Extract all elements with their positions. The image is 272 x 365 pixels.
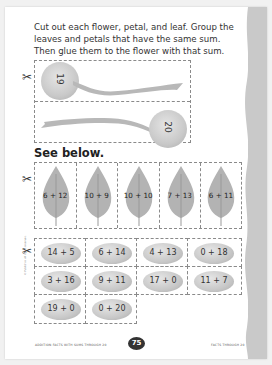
petal-cell: 6 + 14	[85, 238, 137, 267]
petal-equation: 0 + 20	[92, 304, 132, 313]
flower-number: 20	[163, 108, 173, 146]
petal-equation: 4 + 13	[143, 248, 183, 257]
petal-equation: 3 + 16	[41, 276, 81, 285]
leaf-cell: 10 + 10	[118, 163, 160, 228]
scissors-icon: ✂	[22, 172, 32, 186]
instructions-text: Cut out each flower, petal, and leaf. Gr…	[34, 21, 234, 57]
petal-cell: 19 + 0	[34, 294, 86, 324]
petal-image: 19 + 0	[41, 299, 81, 320]
flower-stem	[39, 110, 154, 136]
flower-number: 19	[55, 60, 65, 98]
scissors-icon: ✂	[22, 244, 32, 258]
petal-image: 14 + 5	[41, 243, 81, 264]
petals-cutout-box: 14 + 5 6 + 14 4 + 13 0 + 18 3 + 16 9 + 1…	[34, 238, 242, 328]
leaf-equation: 10 + 9	[77, 191, 118, 200]
flower-cell: 19	[35, 61, 190, 102]
petal-image: 11 + 7	[194, 271, 234, 292]
leaf-cell: 6 + 12	[35, 163, 77, 228]
petal-image: 9 + 11	[92, 271, 132, 292]
petal-image: 0 + 20	[92, 299, 132, 320]
torn-edge-decoration	[248, 7, 267, 359]
leaves-cutout-box: 6 + 12 10 + 9 10 + 10 7 + 13 6 + 11	[34, 162, 242, 229]
petal-image: 4 + 13	[143, 243, 183, 264]
flower-stem	[73, 73, 188, 99]
petal-image: 3 + 16	[41, 271, 81, 292]
flower-head: 20	[149, 110, 187, 148]
petal-image: 0 + 18	[194, 243, 234, 264]
scissors-icon: ✂	[22, 70, 32, 84]
flower-cutout-box: 19 20	[34, 60, 191, 143]
leaf-equation: 7 + 13	[160, 191, 201, 200]
section-heading: See below.	[34, 146, 104, 160]
page-number-badge: 75	[128, 337, 145, 350]
petal-cell: 17 + 0	[136, 266, 188, 295]
petal-cell: 4 + 13	[136, 238, 188, 267]
petal-equation: 11 + 7	[194, 276, 234, 285]
flower-cell: 20	[35, 102, 190, 142]
leaf-equation: 10 + 10	[118, 191, 159, 200]
petal-equation: 19 + 0	[41, 304, 81, 313]
footer-left-text: ADDITION FACTS WITH SUMS THROUGH 20	[35, 343, 107, 347]
petal-cell: 9 + 11	[85, 266, 137, 295]
leaf-equation: 6 + 11	[201, 191, 241, 200]
footer-right-text: FACTS THROUGH 20	[211, 343, 245, 347]
petal-equation: 6 + 14	[92, 248, 132, 257]
petal-cell: 11 + 7	[187, 266, 242, 295]
petal-image: 6 + 14	[92, 243, 132, 264]
petal-cell: 0 + 20	[85, 294, 137, 324]
petal-equation: 14 + 5	[41, 248, 81, 257]
petal-equation: 9 + 11	[92, 276, 132, 285]
petal-equation: 0 + 18	[194, 248, 234, 257]
petal-equation: 17 + 0	[143, 276, 183, 285]
petal-cell: 14 + 5	[34, 238, 86, 267]
leaf-cell: 6 + 11	[201, 163, 241, 228]
petal-cell: 3 + 16	[34, 266, 86, 295]
leaf-equation: 6 + 12	[35, 191, 76, 200]
leaf-cell: 7 + 13	[160, 163, 202, 228]
petal-cell: 0 + 18	[187, 238, 242, 267]
petal-image: 17 + 0	[143, 271, 183, 292]
leaf-cell: 10 + 9	[77, 163, 119, 228]
